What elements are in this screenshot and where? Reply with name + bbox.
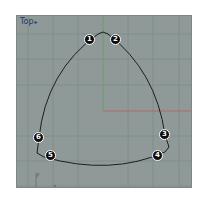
callout-3: 3 bbox=[159, 129, 170, 140]
callout-4: 4 bbox=[152, 150, 163, 161]
callout-6: 6 bbox=[33, 132, 44, 143]
y-axis-label: y bbox=[36, 170, 40, 177]
callout-1: 1 bbox=[84, 34, 95, 45]
x-axis-label: x bbox=[53, 182, 57, 188]
grid bbox=[17, 16, 192, 188]
viewport-menu-arrow-icon: ▸ bbox=[35, 18, 38, 25]
viewport-title: Top bbox=[20, 17, 34, 26]
viewport-top[interactable]: Top▸ y x 1 2 3 4 5 6 bbox=[16, 15, 192, 188]
callout-5: 5 bbox=[45, 150, 56, 161]
callout-2: 2 bbox=[110, 34, 121, 45]
viewport-canvas[interactable] bbox=[17, 16, 192, 188]
viewport-title-menu[interactable]: Top▸ bbox=[19, 17, 39, 27]
